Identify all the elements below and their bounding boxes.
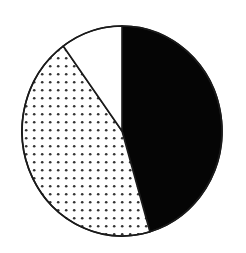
pie-chart-canvas: [0, 0, 246, 253]
pie-chart-figure: [0, 0, 246, 253]
